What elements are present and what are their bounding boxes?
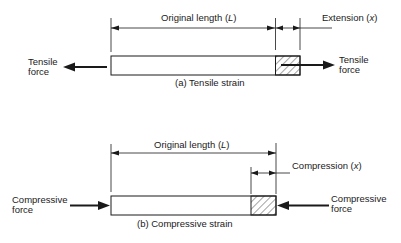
arrow-right-icon	[98, 201, 110, 210]
arrowhead-left-icon	[111, 26, 119, 31]
tensile-caption: (a) Tensile strain	[175, 78, 245, 88]
tensile-bar	[111, 56, 300, 75]
tensile-diagram	[63, 18, 335, 75]
arrow-right-icon	[323, 61, 335, 70]
arrowhead-left-icon	[251, 171, 258, 176]
arrowhead-right-icon	[269, 171, 276, 176]
arrowhead-right-icon	[268, 151, 276, 156]
arrowhead-right-icon	[293, 26, 300, 31]
arrowhead-right-icon	[267, 26, 275, 31]
compressive-compression-label: Compression (x)	[292, 161, 362, 171]
compressive-caption: (b) Compressive strain	[137, 219, 233, 229]
compressive-diagram	[70, 143, 329, 215]
compressive-left-force-label: Compressive force	[12, 195, 67, 215]
arrow-left-icon	[277, 201, 289, 210]
arrow-left-icon	[63, 63, 75, 72]
tensile-original-length-label: Original length (L)	[161, 13, 237, 23]
compressive-original-length-label: Original length (L)	[154, 140, 230, 150]
arrowhead-left-icon	[276, 26, 283, 31]
tensile-extension-label: Extension (x)	[322, 13, 377, 23]
tensile-right-force-label: Tensile force	[339, 55, 369, 75]
tensile-left-force-label: Tensile force	[28, 57, 58, 77]
compressive-compression-hatch	[251, 196, 276, 215]
compressive-right-force-label: Compressive force	[331, 194, 386, 214]
arrowhead-left-icon	[111, 151, 119, 156]
